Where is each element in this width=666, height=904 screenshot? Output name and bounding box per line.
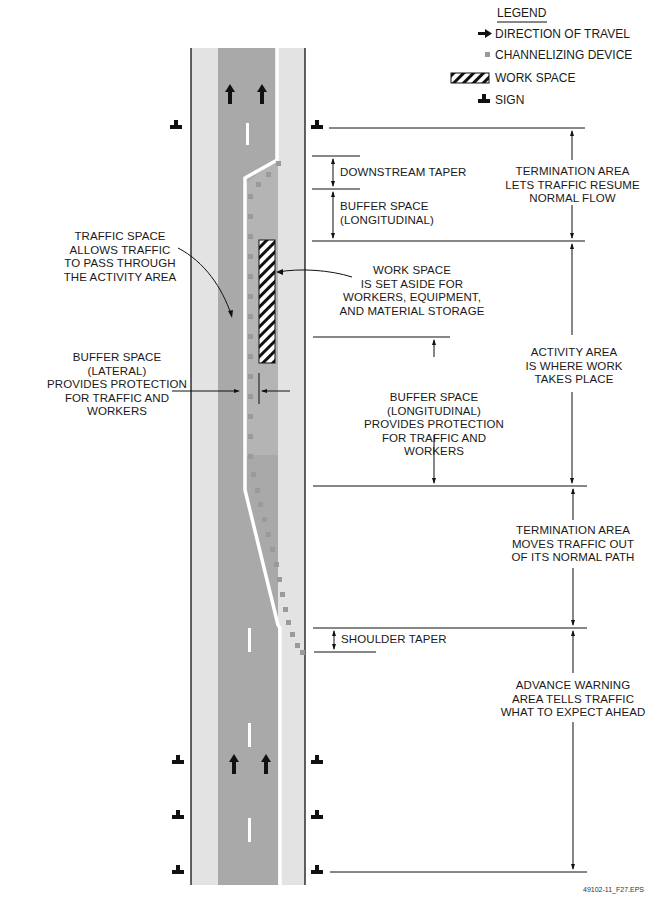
label-buffer-longitudinal-top: BUFFER SPACE (LONGITUDINAL) <box>340 200 434 227</box>
arrow-right-icon <box>478 29 492 38</box>
sign-icon <box>478 94 490 103</box>
legend-direction-of-travel: DIRECTION OF TRAVEL <box>495 27 630 41</box>
label-downstream-taper: DOWNSTREAM TAPER <box>340 166 466 180</box>
legend-sign: SIGN <box>495 93 524 107</box>
sign-icon <box>311 120 323 129</box>
work-zone-diagram <box>0 0 666 904</box>
sign-icon <box>172 810 184 819</box>
sign-icon <box>172 755 184 764</box>
sign-icon <box>311 865 323 874</box>
legend-icons <box>451 29 492 103</box>
legend-title: LEGEND <box>497 6 546 20</box>
label-advance-warning: ADVANCE WARNING AREA TELLS TRAFFIC WHAT … <box>494 679 652 720</box>
label-termination-resume: TERMINATION AREA LETS TRAFFIC RESUME NOR… <box>500 165 645 206</box>
channelizing-device-icon <box>485 52 490 57</box>
sign-icon <box>170 120 182 129</box>
sign-icon <box>172 865 184 874</box>
figure-id: 49102-11_F27.EPS <box>583 886 644 893</box>
legend-channelizing-device: CHANNELIZING DEVICE <box>495 48 632 62</box>
roadway <box>191 48 305 885</box>
legend-work-space: WORK SPACE <box>495 71 575 85</box>
label-work-space: WORK SPACE IS SET ASIDE FOR WORKERS, EQU… <box>338 264 486 318</box>
label-shoulder-taper: SHOULDER TAPER <box>341 633 447 647</box>
sign-icon <box>311 810 323 819</box>
hatched-workspace-icon <box>451 73 489 83</box>
sign-icon <box>311 755 323 764</box>
label-termination-moves: TERMINATION AREA MOVES TRAFFIC OUT OF IT… <box>508 524 638 565</box>
work-space-hatched <box>259 240 275 363</box>
label-buffer-longitudinal-mid: BUFFER SPACE (LONGITUDINAL) PROVIDES PRO… <box>364 391 504 459</box>
label-traffic-space: TRAFFIC SPACE ALLOWS TRAFFIC TO PASS THR… <box>56 230 184 284</box>
label-buffer-lateral: BUFFER SPACE (LATERAL) PROVIDES PROTECTI… <box>44 351 190 419</box>
label-activity-area: ACTIVITY AREA IS WHERE WORK TAKES PLACE <box>520 346 628 387</box>
